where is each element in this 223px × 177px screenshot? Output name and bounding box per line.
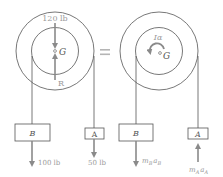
block-b-inertia-label: mBaB: [142, 157, 162, 166]
right-center-g-marker: [159, 52, 162, 55]
moment-label: Iα: [153, 33, 163, 42]
left-block-a-label: A: [91, 130, 98, 139]
diagram-canvas: 120 lb G R B 100 lb A 50 lb Iα: [0, 0, 223, 177]
center-g-label: G: [59, 47, 66, 57]
right-block-a-label: A: [194, 130, 201, 139]
angular-acceleration-arrow: [150, 43, 164, 52]
pulley-fbd-diagram: 120 lb G R B 100 lb A 50 lb Iα: [0, 0, 223, 177]
right-block-b-label: B: [132, 129, 139, 138]
weight-label: 120 lb: [42, 14, 68, 23]
right-outer-pulley: [120, 12, 198, 90]
left-free-body-diagram: 120 lb G R B 100 lb A 50 lb: [15, 12, 106, 167]
block-a-inertia-label: mAaA: [189, 166, 208, 175]
left-block-b-label: B: [29, 129, 36, 138]
block-b-force-label: 100 lb: [38, 159, 61, 167]
right-center-g-label: G: [163, 51, 170, 61]
center-g-marker: [54, 50, 57, 53]
block-a-force-label: 50 lb: [88, 159, 106, 167]
reaction-label: R: [58, 79, 65, 88]
equals-sign: [100, 49, 110, 55]
right-kinetic-diagram: Iα G B mBaB A mAaA: [119, 12, 208, 175]
